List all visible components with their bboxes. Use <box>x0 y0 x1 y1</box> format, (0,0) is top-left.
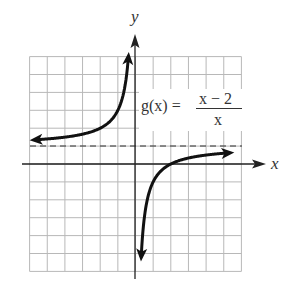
y-axis-label: y <box>129 7 139 26</box>
curve-left-branch <box>36 59 128 140</box>
curve-right-branch <box>141 153 228 256</box>
function-denominator: x <box>214 111 222 128</box>
function-graph: x y g(x) = x − 2 x <box>0 0 289 283</box>
x-axis-label: x <box>270 154 279 173</box>
function-name: g(x) = <box>141 97 181 115</box>
function-numerator: x − 2 <box>199 90 232 107</box>
